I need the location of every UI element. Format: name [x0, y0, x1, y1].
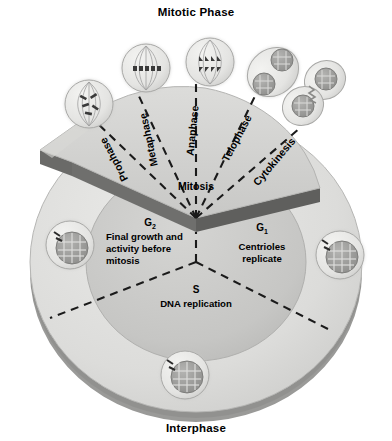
cell-cycle-figure: Mitosis G2 Final growth and activity bef… [0, 0, 392, 441]
s-interphase-cell [160, 350, 210, 400]
telophase-nucleus-b [253, 73, 275, 95]
diagram-canvas: Mitosis G2 Final growth and activity bef… [0, 0, 392, 441]
g1-desc-line2: replicate [242, 253, 281, 264]
g2-desc-line3: mitosis [106, 255, 140, 266]
g2-desc-line2: activity before [106, 243, 171, 254]
s-desc: DNA replication [160, 298, 232, 309]
bottom-title: Interphase [166, 422, 226, 434]
g2-desc-line1: Final growth and [106, 231, 183, 242]
prophase-cell [64, 79, 114, 129]
top-title: Mitotic Phase [158, 6, 235, 18]
metaphase-cell [121, 43, 171, 93]
mitosis-label: Mitosis [178, 180, 214, 192]
g1-interphase-cell [315, 230, 365, 280]
g1-desc-line1: Centrioles [239, 241, 286, 252]
s-symbol: S [193, 284, 200, 295]
anaphase-cell [185, 37, 235, 87]
g2-interphase-cell [45, 220, 95, 270]
telophase-nucleus-a [271, 49, 293, 71]
